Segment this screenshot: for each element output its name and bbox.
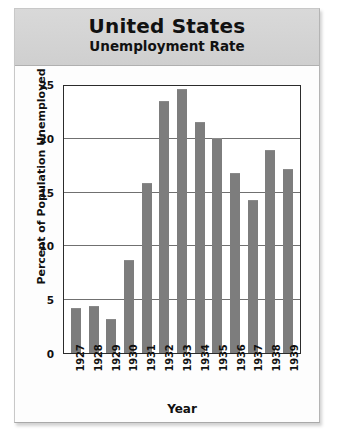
x-tick-slot: 1935 [209, 356, 227, 402]
x-tick-slot: 1934 [191, 356, 209, 402]
x-tick-slot: 1933 [173, 356, 191, 402]
chart-subtitle: Unemployment Rate [15, 37, 319, 53]
x-tick-slot: 1928 [84, 356, 102, 402]
bar-1931[interactable] [142, 183, 152, 353]
bar-1935[interactable] [212, 138, 222, 353]
bar-1933[interactable] [177, 89, 187, 353]
x-tick-slot: 1938 [262, 356, 280, 402]
bar-slot [85, 86, 103, 353]
y-axis-tick-labels: 0510152025 [15, 85, 59, 354]
bar-1936[interactable] [230, 173, 240, 353]
bar-slot [102, 86, 120, 353]
bar-1937[interactable] [248, 200, 258, 353]
x-tick-slot: 1931 [137, 356, 155, 402]
y-axis-tick-label: 10 [39, 240, 54, 252]
bar-1934[interactable] [195, 122, 205, 353]
bar-slot [226, 86, 244, 353]
x-tick-slot: 1932 [155, 356, 173, 402]
x-tick-slot: 1939 [280, 356, 298, 402]
x-tick-slot: 1929 [102, 356, 120, 402]
bar-slot [67, 86, 85, 353]
x-tick-slot: 1927 [66, 356, 84, 402]
chart-title: United States [15, 9, 319, 37]
bar-slot [209, 86, 227, 353]
x-axis-title: Year [63, 402, 301, 416]
y-axis-tick-label: 5 [47, 294, 54, 306]
bar-slot [262, 86, 280, 353]
chart-figure-card: United States Unemployment Rate Percent … [14, 8, 320, 423]
plot-area [63, 85, 301, 354]
bar-slot [155, 86, 173, 353]
bar-slot [173, 86, 191, 353]
x-axis-tick-labels: 1927192819291930193119321933193419351936… [63, 356, 301, 402]
bar-1939[interactable] [283, 169, 293, 353]
y-axis-tick-label: 15 [39, 187, 54, 199]
bar-series [64, 86, 300, 353]
x-tick-slot: 1937 [244, 356, 262, 402]
y-axis-tick-label: 25 [39, 79, 54, 91]
bar-1930[interactable] [124, 260, 134, 353]
bar-slot [120, 86, 138, 353]
y-axis-tick-label: 0 [47, 348, 54, 360]
x-tick-slot: 1930 [120, 356, 138, 402]
x-axis-tick-label: 1939 [289, 344, 300, 371]
bar-1932[interactable] [159, 101, 169, 353]
y-axis-tick-label: 20 [39, 133, 54, 145]
bar-slot [244, 86, 262, 353]
bar-slot [191, 86, 209, 353]
chart-plot-body: Percent of Population Unemployed 0510152… [15, 66, 319, 422]
x-tick-slot: 1936 [227, 356, 245, 402]
bar-slot [138, 86, 156, 353]
bar-slot [279, 86, 297, 353]
bar-1938[interactable] [265, 150, 275, 353]
chart-title-band: United States Unemployment Rate [15, 9, 319, 66]
